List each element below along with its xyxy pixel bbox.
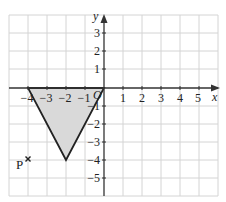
x-tick-label: 1 (120, 91, 126, 105)
x-tick-label: 4 (177, 91, 183, 105)
y-tick-label: 1 (94, 62, 100, 76)
y-tick-labels: 3 2 1 −1 −2 −3 −4 −5 (87, 26, 100, 185)
x-tick-label: 2 (139, 91, 145, 105)
x-tick-label: 5 (195, 91, 201, 105)
y-tick-label: −5 (87, 171, 100, 185)
x-tick-label: 3 (158, 91, 164, 105)
x-tick-label: −3 (40, 91, 53, 105)
x-tick-label: −4 (21, 91, 34, 105)
y-tick-label: −4 (87, 153, 100, 167)
y-tick-label: −3 (87, 135, 100, 149)
x-tick-label: −2 (59, 91, 72, 105)
x-axis-label: x (211, 90, 218, 104)
origin-label: O (93, 88, 102, 102)
point-p-label: P (16, 157, 23, 172)
coordinate-diagram: −4 −3 −2 −1 1 2 3 4 5 3 2 1 −1 −2 −3 −4 … (0, 0, 226, 202)
y-axis-label: y (92, 9, 99, 23)
x-tick-labels: −4 −3 −2 −1 1 2 3 4 5 (21, 91, 201, 105)
y-tick-label: −2 (87, 117, 100, 131)
y-tick-label: 3 (94, 26, 100, 40)
y-tick-label: 2 (94, 44, 100, 58)
